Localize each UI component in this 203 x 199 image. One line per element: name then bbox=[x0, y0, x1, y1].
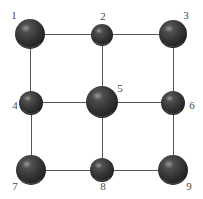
node-sphere bbox=[161, 91, 185, 115]
node-label-5: 5 bbox=[113, 83, 127, 94]
node-specular-highlight bbox=[163, 160, 173, 168]
node-layer bbox=[15, 19, 188, 185]
node-specular-highlight bbox=[94, 162, 102, 168]
node-label-6: 6 bbox=[185, 100, 199, 111]
node-specular-highlight bbox=[23, 95, 31, 101]
node-sphere bbox=[90, 158, 114, 182]
node-label-3: 3 bbox=[179, 10, 193, 21]
node-specular-highlight bbox=[165, 95, 173, 101]
node-specular-highlight bbox=[164, 25, 174, 32]
node-label-4: 4 bbox=[8, 100, 22, 111]
node-label-7: 7 bbox=[8, 181, 22, 192]
node-specular-highlight bbox=[21, 160, 31, 168]
node-label-2: 2 bbox=[96, 11, 110, 22]
graph-node-3[interactable] bbox=[159, 20, 187, 48]
graph-svg bbox=[0, 0, 203, 199]
graph-node-6[interactable] bbox=[161, 91, 185, 115]
node-sphere bbox=[19, 91, 43, 115]
graph-node-4[interactable] bbox=[19, 91, 43, 115]
node-specular-highlight bbox=[95, 28, 102, 34]
node-sphere bbox=[15, 19, 45, 49]
graph-node-2[interactable] bbox=[91, 24, 113, 46]
node-label-9: 9 bbox=[182, 181, 196, 192]
graph-node-1[interactable] bbox=[15, 19, 45, 49]
node-specular-highlight bbox=[20, 24, 30, 32]
node-specular-highlight bbox=[92, 92, 103, 100]
node-label-8: 8 bbox=[96, 181, 110, 192]
diagram-canvas: 123456789 bbox=[0, 0, 203, 199]
graph-node-8[interactable] bbox=[90, 158, 114, 182]
node-sphere bbox=[159, 20, 187, 48]
node-sphere bbox=[91, 24, 113, 46]
node-label-1: 1 bbox=[7, 10, 21, 21]
